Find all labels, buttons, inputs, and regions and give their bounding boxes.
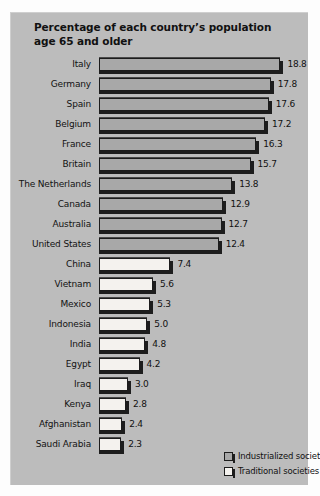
bar-row: Canada12.9 — [11, 195, 309, 217]
bar-right-shadow — [153, 281, 156, 294]
bar-industrial[interactable] — [99, 198, 223, 211]
bar-chart-plot-area: Italy18.8Germany17.8Spain17.6Belgium17.2… — [11, 55, 309, 455]
bar-right-shadow — [170, 261, 173, 274]
bar-row: China7.4 — [11, 255, 309, 277]
bar-3d-group — [96, 238, 222, 254]
bar-category-label: Australia — [11, 219, 91, 229]
bar-industrial[interactable] — [99, 238, 219, 251]
bar-industrial[interactable] — [99, 78, 271, 91]
bar-right-shadow — [256, 141, 259, 154]
bar-category-label: United States — [11, 239, 91, 249]
bar-row: Belgium17.2 — [11, 115, 309, 137]
bar-right-shadow — [251, 161, 254, 174]
bar-value-label: 17.6 — [276, 99, 295, 109]
chart-title-line-2: age 65 and older — [34, 35, 132, 47]
bar-3d-group — [96, 358, 143, 374]
chart-panel: Percentage of each country’s population … — [10, 12, 308, 485]
bar-right-shadow — [121, 441, 124, 454]
bar-bottom-shadow — [99, 271, 170, 274]
bar-right-shadow — [128, 381, 131, 394]
bar-category-label: Vietnam — [11, 279, 91, 289]
bar-3d-group — [96, 218, 225, 234]
bar-value-label: 7.4 — [177, 259, 191, 269]
chart-title-line-1: Percentage of each country’s population — [34, 21, 271, 33]
bar-value-label: 2.8 — [133, 399, 147, 409]
bar-row: United States12.4 — [11, 235, 309, 257]
bar-right-shadow — [126, 401, 129, 414]
bar-value-label: 15.7 — [258, 159, 277, 169]
bar-3d-group — [96, 378, 131, 394]
bar-industrial[interactable] — [99, 158, 251, 171]
bar-bottom-shadow — [99, 311, 150, 314]
bar-industrial[interactable] — [99, 138, 256, 151]
legend-swatch-industrial — [224, 452, 233, 461]
bar-row: Germany17.8 — [11, 75, 309, 97]
bar-value-label: 4.8 — [152, 339, 166, 349]
bar-industrial[interactable] — [99, 58, 280, 71]
bar-row: Afghanistan2.4 — [11, 415, 309, 437]
bar-3d-group — [96, 158, 254, 174]
bar-traditional[interactable] — [99, 358, 140, 371]
bar-row: Spain17.6 — [11, 95, 309, 117]
bar-traditional[interactable] — [99, 438, 121, 451]
bar-industrial[interactable] — [99, 98, 269, 111]
bar-bottom-shadow — [99, 191, 232, 194]
bar-industrial[interactable] — [99, 178, 232, 191]
bar-category-label: Iraq — [11, 379, 91, 389]
chart-legend: Industrialized societiesTraditional soci… — [224, 451, 309, 481]
bar-value-label: 16.3 — [263, 139, 282, 149]
bar-traditional[interactable] — [99, 258, 170, 271]
legend-label: Traditional societies — [238, 466, 318, 476]
bar-industrial[interactable] — [99, 118, 265, 131]
bar-right-shadow — [222, 221, 225, 234]
bar-industrial[interactable] — [99, 218, 222, 231]
bar-3d-group — [96, 338, 148, 354]
bar-bottom-shadow — [99, 131, 265, 134]
bar-value-label: 12.4 — [226, 239, 245, 249]
bar-right-shadow — [280, 61, 283, 74]
bar-value-label: 17.2 — [272, 119, 291, 129]
bar-3d-group — [96, 318, 150, 334]
bar-bottom-shadow — [99, 251, 219, 254]
bar-value-label: 2.3 — [128, 439, 142, 449]
bar-bottom-shadow — [99, 291, 153, 294]
bar-bottom-shadow — [99, 111, 269, 114]
bar-category-label: Saudi Arabia — [11, 439, 91, 449]
bar-traditional[interactable] — [99, 338, 145, 351]
bar-traditional[interactable] — [99, 418, 122, 431]
bar-traditional[interactable] — [99, 378, 128, 391]
bar-category-label: France — [11, 139, 91, 149]
legend-label: Industrialized societies — [238, 451, 318, 461]
bar-category-label: Germany — [11, 79, 91, 89]
bar-traditional[interactable] — [99, 278, 153, 291]
bar-value-label: 12.7 — [229, 219, 248, 229]
bar-category-label: Egypt — [11, 359, 91, 369]
bar-value-label: 2.4 — [129, 419, 143, 429]
bar-3d-group — [96, 398, 129, 414]
bar-value-label: 17.8 — [278, 79, 297, 89]
bar-right-shadow — [145, 341, 148, 354]
bar-right-shadow — [223, 201, 226, 214]
bar-right-shadow — [265, 121, 268, 134]
bar-3d-group — [96, 198, 226, 214]
bar-bottom-shadow — [99, 231, 222, 234]
bar-traditional[interactable] — [99, 298, 150, 311]
bar-row: France16.3 — [11, 135, 309, 157]
bar-3d-group — [96, 178, 235, 194]
bar-row: Italy18.8 — [11, 55, 309, 77]
bar-traditional[interactable] — [99, 398, 126, 411]
bar-bottom-shadow — [99, 351, 145, 354]
bar-right-shadow — [147, 321, 150, 334]
bar-row: Egypt4.2 — [11, 355, 309, 377]
bar-value-label: 3.0 — [135, 379, 149, 389]
bar-3d-group — [96, 78, 274, 94]
bar-category-label: Spain — [11, 99, 91, 109]
bar-category-label: Belgium — [11, 119, 91, 129]
legend-item[interactable]: Industrialized societies — [224, 451, 309, 464]
bar-3d-group — [96, 118, 268, 134]
bar-bottom-shadow — [99, 331, 147, 334]
bar-traditional[interactable] — [99, 318, 147, 331]
bar-3d-group — [96, 298, 153, 314]
bar-3d-group — [96, 58, 283, 74]
legend-item[interactable]: Traditional societies — [224, 466, 309, 479]
